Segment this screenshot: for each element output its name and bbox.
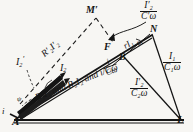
vector-diagram-figure: A L F B N M′ i φ ψ I2′ I2 R′₂I′₂ rI₁ R₁I… bbox=[0, 0, 193, 132]
label-I2-sub: 2 bbox=[63, 66, 66, 73]
vertex-label-A: A bbox=[12, 116, 19, 127]
label-I2-prime-mark: ′ bbox=[22, 55, 24, 64]
vertex-label-M-prime: M′ bbox=[86, 5, 98, 15]
small-current-label-i: i bbox=[2, 107, 5, 116]
vertex-label-L: L bbox=[177, 114, 184, 125]
fraction-numerator: I′₂ bbox=[130, 78, 148, 88]
fraction-numerator: I′₂ bbox=[140, 1, 157, 11]
fraction-denominator: C₂ω bbox=[130, 88, 148, 99]
label-I2: I2 bbox=[60, 63, 66, 74]
fraction-numerator: I₁ bbox=[163, 52, 181, 62]
fraction-denominator: C₁ω bbox=[163, 62, 181, 73]
label-I2-prime-left: I2′ bbox=[16, 56, 24, 68]
angle-phi-at-N: φ bbox=[137, 39, 141, 47]
edge-N-L bbox=[152, 34, 181, 120]
fraction-I2-prime-over-C-prime-omega: I′₂ C′ω bbox=[140, 1, 157, 22]
fraction-I1-over-C1-omega: I₁ C₁ω bbox=[163, 52, 181, 73]
angle-psi-at-A: ψ bbox=[17, 96, 21, 103]
baseline-A-L bbox=[14, 120, 184, 123]
leader-I2-prime bbox=[27, 70, 34, 88]
vertex-label-B: B bbox=[119, 52, 126, 62]
fraction-denominator: C′ω bbox=[140, 11, 157, 22]
vertex-label-F: F bbox=[104, 42, 111, 52]
vertex-label-N: N bbox=[150, 24, 157, 34]
fraction-I2-prime-over-C2-omega: I′₂ C₂ω bbox=[130, 78, 148, 99]
